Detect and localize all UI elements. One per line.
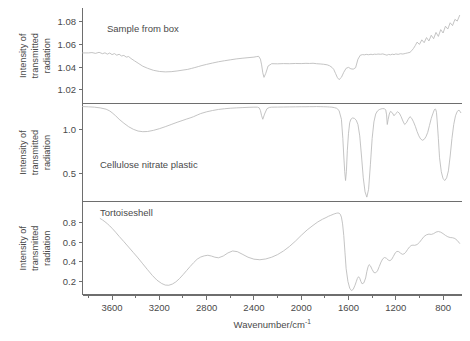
panel-label-sample-from-box: Sample from box [107, 23, 179, 34]
ir-spectra-figure: 1.081.061.041.02Sample from boxIntensity… [0, 0, 470, 341]
x-axis-title-main: Wavenumber/cm [234, 319, 306, 330]
panel-tortoiseshell: 0.80.60.40.2TortoiseshellIntensity oftra… [18, 202, 460, 296]
panel-sample-from-box: 1.081.061.041.02Sample from boxIntensity… [18, 8, 460, 104]
y-ticklabel-cellulose-nitrate-plastic-1: 0.5 [63, 168, 76, 179]
y-axis-title-sample-from-box-line0: Intensity of [18, 33, 28, 78]
panel-label-cellulose-nitrate-plastic: Cellulose nitrate plastic [100, 159, 198, 170]
y-ticklabel-tortoiseshell-0: 0.8 [63, 217, 76, 228]
panel-cellulose-nitrate-plastic: 1.00.5Cellulose nitrate plasticIntensity… [18, 104, 461, 202]
y-axis-title-sample-from-box-line1: transmitted [30, 33, 40, 78]
y-axis-title-cellulose-nitrate-plastic-line2: radiation [42, 135, 52, 170]
spectrum-trace-tortoiseshell [100, 213, 459, 291]
panel-label-tortoiseshell: Tortoiseshell [100, 207, 153, 218]
y-ticklabel-sample-from-box-1: 1.06 [58, 39, 77, 50]
y-axis-title-tortoiseshell-line2: radiation [42, 231, 52, 266]
y-ticklabel-sample-from-box-3: 1.02 [58, 84, 77, 95]
spectra-svg-canvas: 1.081.061.041.02Sample from boxIntensity… [0, 0, 470, 341]
spectrum-trace-cellulose-nitrate-plastic [83, 107, 461, 198]
y-ticklabel-cellulose-nitrate-plastic-0: 1.0 [63, 124, 76, 135]
x-axis: 3600320028002400200016001200800 [83, 295, 463, 313]
x-ticklabel-3600: 3600 [101, 302, 122, 313]
y-ticklabel-tortoiseshell-3: 0.2 [63, 276, 76, 287]
x-ticklabel-3200: 3200 [149, 302, 170, 313]
y-axis-title-tortoiseshell-line1: transmitted [30, 226, 40, 271]
y-axis-title-tortoiseshell-line0: Intensity of [18, 226, 28, 271]
x-ticklabel-2400: 2400 [243, 302, 264, 313]
y-ticklabel-tortoiseshell-2: 0.4 [63, 256, 76, 267]
y-axis-title-sample-from-box-line2: radiation [42, 38, 52, 73]
y-axis-title-cellulose-nitrate-plastic-line1: transmitted [30, 130, 40, 175]
y-ticklabel-sample-from-box-2: 1.04 [58, 62, 77, 73]
y-ticklabel-tortoiseshell-1: 0.6 [63, 237, 76, 248]
x-axis-title: Wavenumber/cm-1 [234, 318, 312, 330]
x-ticklabel-2800: 2800 [196, 302, 217, 313]
x-ticklabel-1200: 1200 [385, 302, 406, 313]
x-ticklabel-800: 800 [435, 302, 451, 313]
y-ticklabel-sample-from-box-0: 1.08 [58, 16, 77, 27]
y-axis-title-cellulose-nitrate-plastic-line0: Intensity of [18, 130, 28, 175]
x-ticklabel-1600: 1600 [338, 302, 359, 313]
x-ticklabel-2000: 2000 [291, 302, 312, 313]
x-axis-title-superscript: -1 [305, 318, 311, 325]
